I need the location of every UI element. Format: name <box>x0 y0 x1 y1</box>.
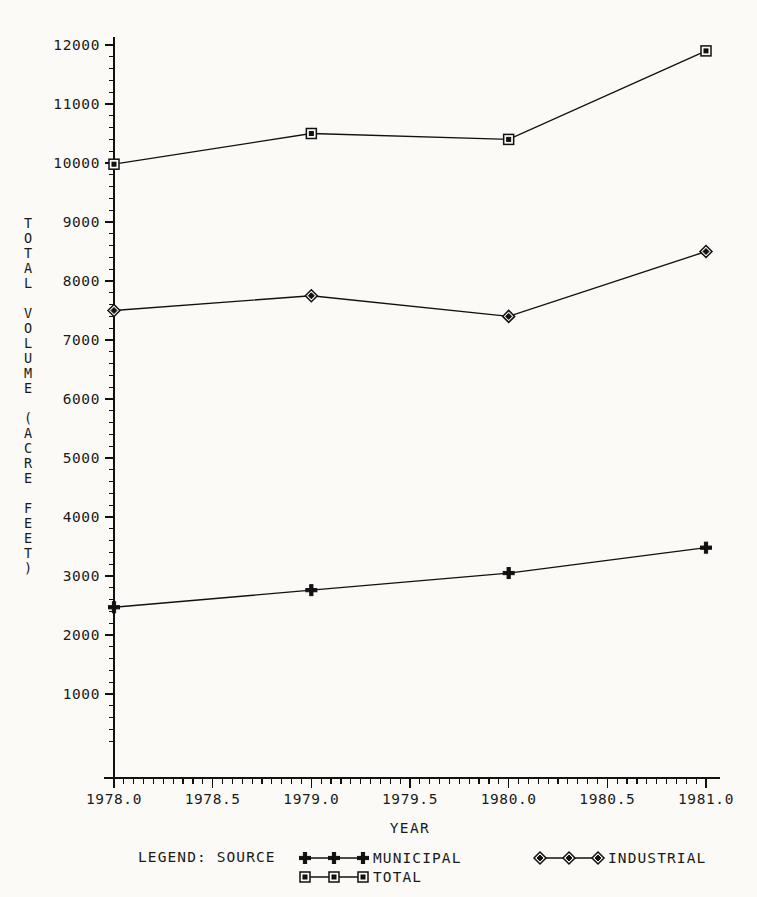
legend-item-municipal[interactable]: MUNICIPAL <box>300 850 462 866</box>
y-tick-label: 9000 <box>63 214 100 230</box>
chart-container: 1000200030004000500060007000800090001000… <box>0 0 757 897</box>
legend-marker <box>300 853 311 864</box>
legend-marker <box>358 853 369 864</box>
y-axis-title-char: C <box>24 440 32 456</box>
y-axis-title-char: A <box>24 425 32 441</box>
y-axis-title-char: E <box>24 380 32 396</box>
y-axis-title-char: O <box>24 320 32 336</box>
x-tick-label: 1980.5 <box>579 791 635 807</box>
y-axis-title-char: T <box>24 245 32 261</box>
y-axis-title-char: L <box>24 335 32 351</box>
y-axis-title-char: M <box>24 365 32 381</box>
legend-item-total[interactable]: TOTAL <box>300 869 422 885</box>
x-tick-label: 1981.0 <box>678 791 734 807</box>
x-tick-label: 1979.0 <box>283 791 339 807</box>
y-axis-title: TOTALVOLUME(ACREFEET) <box>24 215 33 576</box>
legend-marker <box>329 853 340 864</box>
legend-marker <box>592 852 604 864</box>
y-axis-title-char: E <box>24 530 32 546</box>
y-axis-title-char: E <box>24 470 32 486</box>
y-axis-title-char: U <box>24 350 32 366</box>
legend-marker <box>329 872 339 882</box>
y-axis-title-char: F <box>24 500 32 516</box>
legend-title: LEGEND: SOURCE <box>138 849 276 865</box>
data-point <box>108 305 120 317</box>
y-tick-label: 12000 <box>53 37 100 53</box>
x-axis: 1978.01978.51979.01979.51980.01980.51981… <box>86 778 734 807</box>
y-axis-title-char: R <box>24 455 33 471</box>
y-axis: 1000200030004000500060007000800090001000… <box>53 37 114 779</box>
data-point <box>701 46 711 56</box>
data-point <box>503 310 515 322</box>
y-tick-label: 1000 <box>63 686 100 702</box>
x-tick-label: 1980.0 <box>481 791 537 807</box>
y-axis-title-char: T <box>24 545 32 561</box>
data-point <box>305 290 317 302</box>
series-municipal <box>109 542 712 613</box>
chart-legend: LEGEND: SOURCEMUNICIPALINDUSTRIALTOTAL <box>138 849 706 885</box>
legend-marker <box>563 852 575 864</box>
legend-item-industrial[interactable]: INDUSTRIAL <box>534 850 706 866</box>
line-chart: 1000200030004000500060007000800090001000… <box>0 0 757 897</box>
x-tick-label: 1978.0 <box>86 791 142 807</box>
series-industrial <box>108 246 712 323</box>
data-point <box>109 159 119 169</box>
y-tick-label: 7000 <box>63 332 100 348</box>
y-axis-title-char: ( <box>24 410 32 426</box>
y-axis-title-char: ) <box>24 560 32 576</box>
x-axis-title: YEAR <box>390 820 431 836</box>
y-tick-label: 3000 <box>63 568 100 584</box>
legend-marker <box>534 852 546 864</box>
x-tick-label: 1978.5 <box>185 791 241 807</box>
data-point <box>701 542 712 553</box>
y-axis-title-char: L <box>24 275 32 291</box>
data-point <box>700 246 712 258</box>
y-tick-label: 2000 <box>63 627 100 643</box>
data-point <box>306 129 316 139</box>
legend-label: MUNICIPAL <box>373 850 461 866</box>
legend-marker <box>300 872 310 882</box>
legend-marker <box>358 872 368 882</box>
y-tick-label: 5000 <box>63 450 100 466</box>
data-point <box>306 585 317 596</box>
data-point <box>503 568 514 579</box>
y-tick-label: 11000 <box>53 96 100 112</box>
x-axis-title-text: YEAR <box>390 820 431 836</box>
legend-label: INDUSTRIAL <box>608 850 706 866</box>
y-tick-label: 10000 <box>53 155 100 171</box>
y-axis-title-char: V <box>24 305 32 321</box>
y-tick-label: 8000 <box>63 273 100 289</box>
y-axis-title-char: T <box>24 215 32 231</box>
y-axis-title-char: E <box>24 515 32 531</box>
y-tick-label: 4000 <box>63 509 100 525</box>
y-tick-label: 6000 <box>63 391 100 407</box>
series-total <box>109 46 711 169</box>
data-point <box>504 134 514 144</box>
data-series-group <box>108 46 712 613</box>
y-axis-title-char: A <box>24 260 32 276</box>
legend-label: TOTAL <box>373 869 422 885</box>
x-tick-label: 1979.5 <box>382 791 438 807</box>
y-axis-title-char: O <box>24 230 32 246</box>
